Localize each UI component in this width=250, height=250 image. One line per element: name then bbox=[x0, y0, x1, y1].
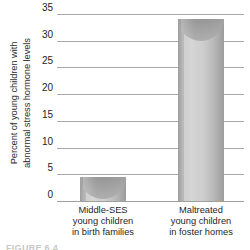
y-tick-label-5: 5 bbox=[38, 163, 53, 173]
y-tick-label-25: 25 bbox=[38, 56, 53, 66]
y-tick-label-30: 30 bbox=[38, 30, 53, 40]
y-tick-label-15: 15 bbox=[38, 110, 53, 120]
bar-top-ellipse-1 bbox=[178, 19, 224, 41]
category-label-0-line-1: young children bbox=[56, 216, 150, 227]
figure-caption: FIGURE 6.4 bbox=[6, 243, 58, 250]
y-axis-title-line-1: Percent of young children with bbox=[7, 38, 20, 168]
bar-top-sheen-1 bbox=[181, 19, 195, 41]
category-label-0: Middle-SESyoung childrenin birth familie… bbox=[56, 205, 150, 239]
bar-top-sheen-0 bbox=[83, 177, 97, 199]
category-label-1-line-1: young children bbox=[154, 216, 248, 227]
y-axis-title: Percent of young children with abnormal … bbox=[0, 0, 40, 205]
category-label-1-line-0: Maltreated bbox=[154, 205, 248, 216]
y-tick-label-35: 35 bbox=[38, 3, 53, 13]
y-tick-label-20: 20 bbox=[38, 83, 53, 93]
y-tick-label-10: 10 bbox=[38, 137, 53, 147]
bar-sheen-1 bbox=[184, 19, 196, 201]
category-label-0-line-2: in birth families bbox=[56, 227, 150, 238]
gridline-0 bbox=[57, 201, 244, 202]
category-label-1: Maltreatedyoung childrenin foster homes bbox=[154, 205, 248, 239]
category-label-0-line-0: Middle-SES bbox=[56, 205, 150, 216]
bar-top-ellipse-0 bbox=[80, 177, 126, 199]
y-axis-title-line-2: abnormal stress hormone levels bbox=[20, 38, 33, 168]
category-label-1-line-2: in foster homes bbox=[154, 227, 248, 238]
gridline-35 bbox=[57, 14, 244, 15]
plot-area bbox=[57, 14, 244, 201]
figure-bar-chart: Percent of young children with abnormal … bbox=[0, 0, 250, 250]
bar-1 bbox=[178, 19, 224, 201]
bar-0 bbox=[80, 177, 126, 201]
y-tick-label-0: 0 bbox=[38, 190, 53, 200]
